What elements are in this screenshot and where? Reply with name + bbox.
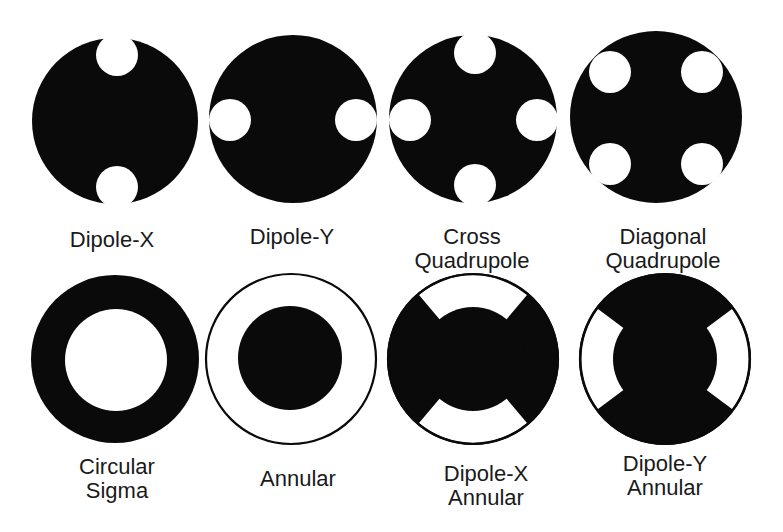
label-circular-sigma-line1: Circular — [79, 454, 155, 479]
dipole-x-annular-shape — [387, 273, 559, 445]
label-dipole-y-annular-line1: Dipole-Y — [623, 451, 708, 476]
label-dipole-x: Dipole-X — [70, 227, 155, 252]
diagonal-quadrupole-shape — [570, 31, 742, 203]
dipole-y-shape — [209, 35, 377, 203]
label-cross-quadrupole-line1: Cross — [443, 224, 500, 249]
label-dipole-x-annular-line1: Dipole-X — [444, 461, 529, 486]
cross-quadrupole-shape — [389, 32, 558, 206]
label-cross-quadrupole-line2: Quadrupole — [415, 248, 530, 273]
illumination-shapes-diagram: Dipole-X Dipole-Y Cross Quadrupole Diago… — [0, 0, 783, 532]
annular-shape — [206, 274, 376, 444]
label-circular-sigma-line2: Sigma — [86, 478, 149, 503]
label-diagonal-quadrupole-line1: Diagonal — [620, 224, 707, 249]
label-annular: Annular — [260, 466, 336, 491]
circular-sigma-shape — [31, 275, 199, 443]
label-diagonal-quadrupole-line2: Quadrupole — [606, 248, 721, 273]
dipole-x-shape — [32, 34, 198, 208]
dipole-y-annular-shape — [579, 273, 751, 445]
label-dipole-y: Dipole-Y — [250, 224, 335, 249]
label-dipole-x-annular-line2: Annular — [448, 485, 524, 510]
label-dipole-y-annular-line2: Annular — [627, 475, 703, 500]
